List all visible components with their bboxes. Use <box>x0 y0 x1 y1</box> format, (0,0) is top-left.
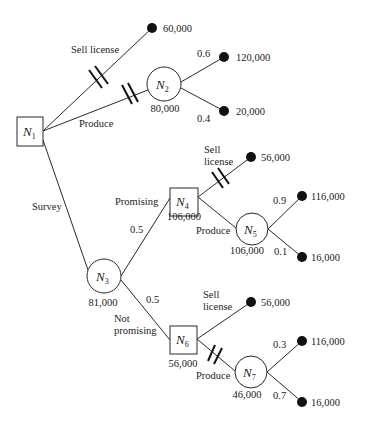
node-n6: N6 56,000 <box>169 326 198 369</box>
edge-n3-promising <box>121 198 170 276</box>
prob-label: 0.1 <box>274 246 287 257</box>
terminal-dot <box>246 152 256 162</box>
terminal-dot <box>219 52 229 62</box>
prob-label: 0.7 <box>273 390 286 401</box>
payoff-value: 120,000 <box>236 52 270 63</box>
node-n7: N7 46,000 <box>233 356 267 400</box>
edge-label-survey: Survey <box>32 201 62 212</box>
payoff-value: 56,000 <box>261 297 290 308</box>
terminal-dot <box>297 336 307 346</box>
edge-label-sell-license: Sell <box>204 144 220 155</box>
node-n2: N2 80,000 <box>147 67 181 114</box>
node-value: 106,000 <box>230 245 264 256</box>
prob-label: 0.6 <box>197 48 210 59</box>
decision-tree-diagram: N1 N2 80,000 N3 81,000 N4 106,000 N5 106… <box>0 0 365 423</box>
edge-label-sell-license: Sell <box>203 289 219 300</box>
edge-label-produce: Produce <box>196 370 231 381</box>
prob-label: 0.9 <box>273 195 286 206</box>
edge-label-produce: Produce <box>196 225 231 236</box>
terminal-dot <box>297 191 307 201</box>
edge-n2-high <box>181 57 224 82</box>
edge-n4-produce <box>198 197 236 228</box>
edge-n2-low <box>181 88 224 111</box>
node-n1: N1 <box>17 117 43 146</box>
node-n5: N5 106,000 <box>230 213 268 256</box>
payoff-value: 56,000 <box>261 152 290 163</box>
node-n3: N3 81,000 <box>87 259 121 308</box>
node-value: 106,000 <box>167 211 201 222</box>
payoff-value: 60,000 <box>163 23 192 34</box>
payoff-value: 20,000 <box>236 106 265 117</box>
node-n4: N4 106,000 <box>167 188 201 222</box>
payoff-value: 16,000 <box>311 252 340 263</box>
edge-label-not-promising: promising <box>114 325 157 336</box>
payoff-value: 116,000 <box>311 191 345 202</box>
node-value: 80,000 <box>151 103 180 114</box>
node-value: 81,000 <box>89 297 118 308</box>
edge-label-sell-license: license <box>204 156 233 167</box>
prob-label: 0.3 <box>273 339 286 350</box>
edge-label-sell-license: license <box>203 301 232 312</box>
terminal-dot <box>147 23 157 33</box>
payoff-value: 16,000 <box>311 397 340 408</box>
node-value: 46,000 <box>233 389 262 400</box>
edge-label-not-promising: Not <box>114 313 130 324</box>
edge-label-promising: Promising <box>115 196 159 207</box>
prob-label: 0.5 <box>146 294 159 305</box>
prob-label: 0.4 <box>197 113 211 124</box>
edge-label-produce: Produce <box>79 118 114 129</box>
edge-label-sell-license: Sell license <box>71 44 119 55</box>
terminal-dot <box>219 106 229 116</box>
terminal-dot <box>297 397 307 407</box>
node-value: 56,000 <box>169 358 198 369</box>
terminal-dot <box>297 252 307 262</box>
edge-n6-produce <box>197 339 235 371</box>
terminal-dot <box>246 297 256 307</box>
prune-mark-n1-produce <box>122 83 138 104</box>
prob-label: 0.5 <box>130 224 143 235</box>
payoff-value: 116,000 <box>311 336 345 347</box>
